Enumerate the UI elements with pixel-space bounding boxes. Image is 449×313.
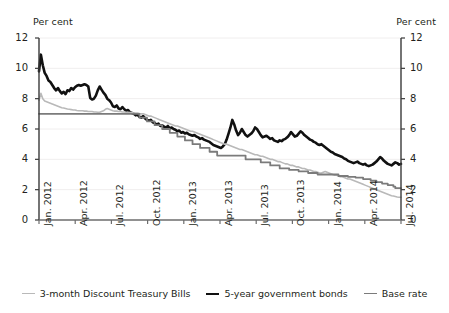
x-tick-label: Jan. 2012: [43, 181, 53, 226]
x-tick-label: Jan. 2013: [188, 181, 198, 226]
x-tick-label: Oct. 2013: [296, 179, 306, 226]
x-tick-label: Apr. 2012: [79, 180, 89, 226]
x-tick-label: Jan. 2014: [333, 181, 343, 226]
chart-container: Per cent Per cent 024681012 024681012 Ja…: [0, 0, 449, 313]
legend-label: 5-year government bonds: [224, 288, 347, 299]
y-tick-label-left: 4: [6, 154, 28, 164]
legend-item[interactable]: Base rate: [364, 288, 427, 299]
series-line: [39, 55, 401, 166]
x-tick-label: Apr. 2013: [224, 180, 234, 226]
y-tick-label-right: 6: [410, 124, 432, 134]
x-tick-label: Apr. 2014: [369, 180, 379, 226]
x-tick-label: Jul. 2014: [405, 184, 415, 226]
y-tick-label-right: 4: [410, 154, 432, 164]
series-line: [39, 114, 401, 188]
y-tick-label-left: 8: [6, 94, 28, 104]
x-tick-label: Oct. 2012: [152, 179, 162, 226]
legend-swatch-icon: [364, 293, 377, 294]
legend-item[interactable]: 5-year government bonds: [206, 288, 347, 299]
legend-label: 3-month Discount Treasury Bills: [40, 288, 191, 299]
y-tick-label-left: 0: [6, 215, 28, 225]
series-line: [39, 93, 401, 197]
legend-label: Base rate: [382, 288, 427, 299]
x-tick-label: Jul. 2013: [260, 184, 270, 226]
legend-swatch-icon: [206, 293, 219, 295]
y-tick-label-right: 10: [410, 63, 432, 73]
y-tick-label-left: 6: [6, 124, 28, 134]
y-tick-label-left: 2: [6, 185, 28, 195]
plot-area: [0, 0, 449, 313]
chart-legend: 3-month Discount Treasury Bills5-year go…: [0, 288, 449, 299]
x-tick-label: Jul. 2012: [115, 184, 125, 226]
y-tick-label-left: 12: [6, 33, 28, 43]
legend-item[interactable]: 3-month Discount Treasury Bills: [22, 288, 191, 299]
y-tick-label-right: 12: [410, 33, 432, 43]
y-tick-label-left: 10: [6, 63, 28, 73]
y-tick-label-right: 8: [410, 94, 432, 104]
legend-swatch-icon: [22, 293, 35, 294]
